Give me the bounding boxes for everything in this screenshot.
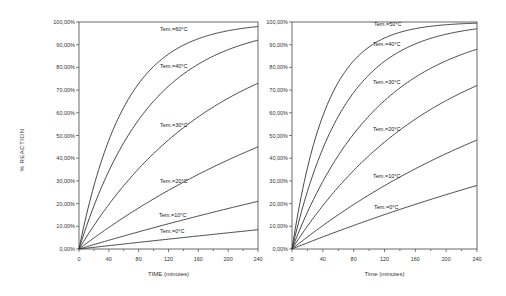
y-tick-label: 100,00% xyxy=(266,19,288,25)
y-tick-label: 70,00% xyxy=(56,87,75,93)
y-tick-label: 60,00% xyxy=(56,110,75,116)
curve-Tem.=0C xyxy=(292,185,477,249)
y-tick-label: 40,00% xyxy=(269,155,288,161)
y-tick-label: 20,00% xyxy=(269,201,288,207)
curve-Tem.=50C xyxy=(292,23,477,249)
series-label: Tem.=20°C xyxy=(373,126,400,132)
series-label: Tem.=10°C xyxy=(159,212,186,218)
series-label: Tem.=40°C xyxy=(160,63,187,69)
series-label: Tem.=40°C xyxy=(373,41,400,47)
curve-Tem.=40C xyxy=(292,29,477,249)
series-label: Tem.=0°C xyxy=(374,204,398,210)
x-tick-label: 160 xyxy=(194,256,203,262)
x-tick-label: 0 xyxy=(290,256,293,262)
series-label: Tem.=20°C xyxy=(160,178,187,184)
series-label: Tem.=30°C xyxy=(373,79,400,85)
series-label: Tem.=0°C xyxy=(160,228,184,234)
y-tick-label: 0,00% xyxy=(59,246,75,252)
series-label: Tem.=10°C xyxy=(373,173,400,179)
y-axis-title: % REACTION xyxy=(19,128,25,171)
series-label: Tem.=30°C xyxy=(160,122,187,128)
y-tick-label: 80,00% xyxy=(269,64,288,70)
x-tick-label: 80 xyxy=(351,256,357,262)
x-tick-label: 0 xyxy=(77,256,80,262)
series-label: Tem.=60°C xyxy=(160,26,187,32)
x-tick-label: 200 xyxy=(224,256,233,262)
x-tick-label: 40 xyxy=(320,256,326,262)
curve-Tem.=20C xyxy=(292,86,477,249)
y-tick-label: 10,00% xyxy=(56,223,75,229)
x-axis-title: TIME (minutes) xyxy=(148,271,189,277)
y-tick-label: 40,00% xyxy=(56,155,75,161)
y-tick-label: 30,00% xyxy=(269,178,288,184)
y-tick-label: 90,00% xyxy=(56,42,75,48)
x-tick-label: 240 xyxy=(253,256,262,262)
y-tick-label: 10,00% xyxy=(269,223,288,229)
y-tick-label: 70,00% xyxy=(269,87,288,93)
series-label: Tem.=50°C xyxy=(374,21,401,27)
x-tick-label: 40 xyxy=(106,256,112,262)
x-tick-label: 240 xyxy=(472,256,481,262)
y-tick-label: 60,00% xyxy=(269,110,288,116)
y-tick-label: 30,00% xyxy=(56,178,75,184)
y-tick-label: 80,00% xyxy=(56,64,75,70)
x-tick-label: 120 xyxy=(380,256,389,262)
y-tick-label: 0,00% xyxy=(272,246,288,252)
x-axis-title: Time (minutes) xyxy=(365,271,405,277)
y-tick-label: 100,00% xyxy=(53,19,75,25)
x-tick-label: 120 xyxy=(164,256,173,262)
reaction-charts: 0,00%10,00%20,00%30,00%40,00%50,00%60,00… xyxy=(0,0,506,296)
y-tick-label: 50,00% xyxy=(269,133,288,139)
x-tick-label: 200 xyxy=(442,256,451,262)
x-tick-label: 160 xyxy=(411,256,420,262)
x-tick-label: 80 xyxy=(136,256,142,262)
y-tick-label: 90,00% xyxy=(269,42,288,48)
y-tick-label: 50,00% xyxy=(56,133,75,139)
y-tick-label: 20,00% xyxy=(56,201,75,207)
